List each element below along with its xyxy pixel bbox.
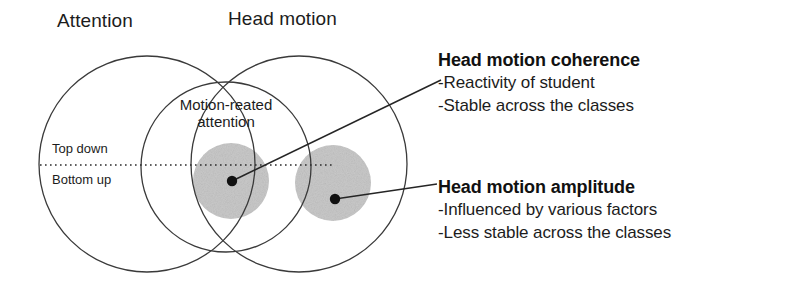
venn-diagram-figure: Attention Head motion Motion-reated atte… <box>0 0 798 300</box>
annotation-head-motion-coherence: Head motion coherence -Reactivity of stu… <box>438 49 640 117</box>
diagram-canvas <box>0 0 798 300</box>
top-down-label: Top down <box>52 141 108 156</box>
annotation-heading: Head motion coherence <box>438 49 640 71</box>
bottom-up-label: Bottom up <box>52 172 111 187</box>
head-motion-title: Head motion <box>228 8 337 30</box>
annotation-head-motion-amplitude: Head motion amplitude -Influenced by var… <box>438 176 671 244</box>
annotation-bullet: -Stable across the classes <box>438 94 640 117</box>
annotation-heading: Head motion amplitude <box>438 176 671 198</box>
head-motion-cluster <box>295 145 371 221</box>
motion-related-attention-label: Motion-reated attention <box>161 96 291 130</box>
attention-title: Attention <box>57 10 133 32</box>
annotation-bullet: -Reactivity of student <box>438 71 640 94</box>
annotation-bullet: -Less stable across the classes <box>438 221 671 244</box>
head-motion-amplitude-point <box>330 194 340 204</box>
annotation-bullet: -Influenced by various factors <box>438 198 671 221</box>
head-motion-coherence-point <box>227 176 237 186</box>
